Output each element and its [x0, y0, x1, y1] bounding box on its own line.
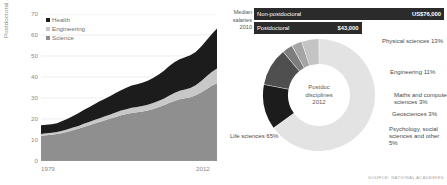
legend-swatch-engineering-icon	[46, 27, 50, 31]
x-tick-start: 1979	[41, 165, 55, 172]
median-salaries-caption: Median salaries 2010	[225, 9, 252, 32]
bar-label-non-postdoctoral: Non-postdoctoral	[254, 11, 301, 17]
bar-label-postdoctoral: Postdoctoral	[254, 25, 289, 31]
caption-line-median: Median	[225, 9, 252, 17]
bar-value-non-postdoctoral: US$76,000	[412, 11, 444, 17]
median-salaries-bar-chart: Median salaries 2010 Non-postdoctoral US…	[225, 8, 445, 35]
y-axis-title: Postdoctoral appointees (thousands)	[2, 0, 9, 38]
donut-label-life-sciences: Life sciences 65%	[230, 133, 286, 140]
y-tick-40: 40	[16, 74, 38, 80]
y-tick-70: 70	[16, 11, 38, 17]
donut-label-psychology-social: Psychology, social sciences and other 5%	[389, 126, 447, 148]
bar-postdoctoral: Postdoctoral $43,000	[254, 22, 362, 34]
bar-non-postdoctoral: Non-postdoctoral US$76,000	[254, 8, 444, 20]
legend-item-health: Health	[46, 16, 85, 24]
legend-swatch-science-icon	[46, 36, 50, 40]
caption-line-salaries: salaries	[225, 17, 252, 25]
donut-label-geosciences: Geosciences 3%	[392, 111, 437, 118]
legend-swatch-health-icon	[46, 18, 50, 22]
y-tick-0: 0	[16, 158, 38, 164]
donut-label-engineering: Engineering 11%	[390, 69, 435, 76]
y-axis-ticks: 70 60 50 40 30 20 10 0	[14, 0, 38, 185]
donut-label-physical-sciences: Physical sciences 13%	[382, 38, 443, 45]
legend-label-science: Science	[52, 35, 74, 41]
legend-item-science: Science	[46, 34, 85, 42]
caption-line-year: 2010	[225, 24, 252, 32]
bar-row-non-postdoctoral: Non-postdoctoral US$76,000	[254, 8, 445, 20]
postdoc-appointees-area-chart: Postdoctoral appointees (thousands) 70 6…	[0, 0, 224, 185]
y-tick-50: 50	[16, 53, 38, 59]
y-tick-20: 20	[16, 116, 38, 122]
figure-root: Postdoctoral appointees (thousands) 70 6…	[0, 0, 447, 185]
chart-legend: Health Engineering Science	[46, 16, 85, 43]
legend-label-health: Health	[52, 17, 70, 23]
postdoc-salary-and-disciplines-panel: Median salaries 2010 Non-postdoctoral US…	[224, 0, 447, 185]
source-credit: SOURCE: NATIONAL ACADEMIES	[368, 175, 444, 180]
x-tick-end: 2012	[196, 165, 210, 172]
bar-row-postdoctoral: Postdoctoral $43,000	[254, 22, 445, 34]
donut-label-maths-computer: Maths and computer sciences 3%	[394, 92, 447, 106]
legend-item-engineering: Engineering	[46, 25, 85, 33]
bar-value-postdoctoral: $43,000	[338, 25, 362, 31]
y-tick-10: 10	[16, 137, 38, 143]
y-tick-30: 30	[16, 95, 38, 101]
y-tick-60: 60	[16, 32, 38, 38]
area-series-paths	[41, 28, 217, 161]
legend-label-engineering: Engineering	[52, 26, 85, 32]
